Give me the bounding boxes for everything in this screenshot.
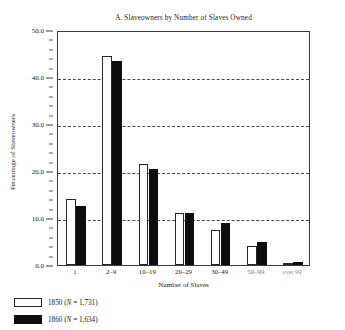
bar-group (211, 32, 231, 265)
y-axis-minor-tick (49, 181, 53, 182)
y-axis-tick (46, 78, 53, 79)
bar-group (283, 32, 303, 265)
y-axis-minor-tick (49, 134, 53, 135)
bar-1860-20–29 (185, 213, 195, 265)
y-axis-tick-label: 0.0 (35, 262, 44, 270)
y-axis-minor-tick (49, 162, 53, 163)
y-axis-minor-tick (49, 237, 53, 238)
bar-1860-50–99 (257, 242, 267, 266)
y-axis-tick-label: 20.0 (32, 168, 44, 176)
bar-1860-1 (76, 206, 86, 265)
y-axis-tick-label: 10.0 (32, 215, 44, 223)
y-axis-minor-tick (49, 209, 53, 210)
bar-1850-1 (66, 199, 76, 265)
plot-area (57, 31, 310, 266)
x-axis-tick-label: 2–9 (106, 268, 116, 275)
bar-1860-over-99 (293, 262, 303, 265)
y-axis-tick (46, 31, 53, 32)
bar-1860-10–19 (149, 169, 159, 265)
bar-group (175, 32, 195, 265)
chart-legend: 1850 (N = 1,731)1860 (N = 1,634) (14, 295, 214, 329)
y-axis-minor-tick (49, 247, 53, 248)
legend-item: 1850 (N = 1,731) (14, 295, 214, 310)
y-axis-minor-tick (49, 49, 53, 50)
bar-1860-2–9 (112, 61, 122, 265)
bar-1850-20–29 (175, 213, 185, 265)
bar-1860-30–49 (221, 223, 231, 265)
y-axis-minor-tick (49, 87, 53, 88)
y-axis-minor-tick (49, 96, 53, 97)
y-axis-minor-tick (49, 106, 53, 107)
bar-1850-30–49 (211, 230, 221, 265)
bar-1850-10–19 (139, 164, 149, 265)
legend-swatch-1850 (14, 298, 42, 307)
y-axis-tick (46, 219, 53, 220)
legend-label-1860: 1860 (N = 1,634) (48, 316, 98, 324)
bar-group (139, 32, 159, 265)
y-axis-tick-label: 30.0 (32, 121, 44, 129)
x-axis-tick-label: 10–19 (139, 268, 156, 275)
y-axis-tick (46, 172, 53, 173)
x-axis-tick-label: 20–29 (175, 268, 192, 275)
x-axis-tick-label: 50–99 (247, 268, 264, 275)
x-axis-tick-label: 30–49 (211, 268, 228, 275)
y-axis-minor-tick (49, 115, 53, 116)
x-axis-tick-label: 1 (73, 268, 76, 275)
chart-figure: A. Slaveowners by Number of Slaves Owned… (0, 0, 345, 330)
y-axis-minor-tick (49, 200, 53, 201)
legend-swatch-1860 (14, 315, 42, 324)
y-axis-tick-label: 40.0 (32, 74, 44, 82)
x-axis-title: Number of Slaves (57, 281, 310, 289)
y-axis-minor-tick (49, 68, 53, 69)
y-axis-tick (46, 125, 53, 126)
bar-group (247, 32, 267, 265)
y-axis-minor-tick (49, 256, 53, 257)
x-axis-tick-label: over 99 (283, 268, 302, 275)
bar-group (66, 32, 86, 265)
y-axis-tick-label: 50.0 (32, 27, 44, 35)
y-axis-minor-tick (49, 190, 53, 191)
y-axis: 50.040.030.020.010.00.0 (0, 31, 53, 266)
legend-item: 1860 (N = 1,634) (14, 312, 214, 327)
y-axis-minor-tick (49, 228, 53, 229)
x-axis: 12–910–1920–2930–4950–99over 99 (57, 268, 310, 280)
y-axis-minor-tick (49, 40, 53, 41)
legend-label-1850: 1850 (N = 1,731) (48, 299, 98, 307)
y-axis-tick (46, 266, 53, 267)
bar-1850-50–99 (247, 246, 257, 265)
chart-title: A. Slaveowners by Number of Slaves Owned (57, 14, 310, 22)
y-axis-minor-tick (49, 143, 53, 144)
bar-1850-over-99 (283, 263, 293, 265)
y-axis-minor-tick (49, 153, 53, 154)
bar-1850-2–9 (102, 56, 112, 265)
y-axis-minor-tick (49, 59, 53, 60)
bar-group (102, 32, 122, 265)
